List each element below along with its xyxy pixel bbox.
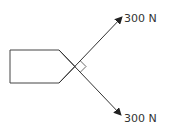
- force-label-upper: 300 N: [124, 12, 157, 25]
- force-arrow-down: [59, 50, 121, 115]
- force-arrow-up: [59, 17, 122, 83]
- force-diagram: 300 N 300 N: [0, 0, 173, 132]
- right-angle-marker: [81, 61, 87, 72]
- force-label-lower: 300 N: [124, 112, 157, 125]
- pentagon-block: [10, 50, 75, 83]
